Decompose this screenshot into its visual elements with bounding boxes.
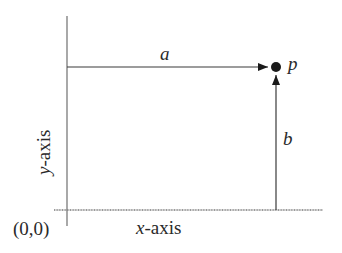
coordinate-diagram: a p b (0,0) x-axis y-axis bbox=[0, 0, 342, 253]
y-axis-label: y-axis bbox=[33, 130, 54, 177]
x-axis-label-rest: -axis bbox=[144, 217, 181, 238]
origin-label: (0,0) bbox=[13, 218, 49, 240]
vector-a-label: a bbox=[160, 43, 170, 64]
y-axis-label-rest: -axis bbox=[33, 130, 54, 167]
point-p-label: p bbox=[286, 53, 298, 74]
point-p-dot bbox=[271, 62, 281, 72]
x-axis-label: x-axis bbox=[135, 217, 181, 238]
vector-b-label: b bbox=[283, 128, 293, 149]
y-axis-label-var: y bbox=[33, 166, 54, 177]
